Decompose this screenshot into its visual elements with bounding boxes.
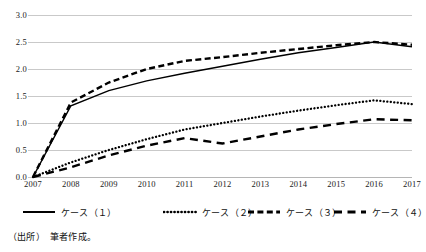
series-lines bbox=[33, 15, 412, 177]
legend-label: ケース（１） bbox=[61, 206, 116, 219]
x-axis-labels: 2007200820092010201120122013201420152016… bbox=[33, 179, 412, 195]
x-axis-tick-label: 2014 bbox=[289, 179, 307, 189]
x-axis-tick-label: 2016 bbox=[365, 179, 383, 189]
y-axis-tick-label: 2.0 bbox=[16, 64, 27, 74]
legend-swatch-long-dash bbox=[333, 207, 367, 217]
y-axis-tick-label: 1.5 bbox=[16, 91, 27, 101]
x-axis-tick-label: 2015 bbox=[327, 179, 345, 189]
plot-area: 0.00.51.01.52.02.53.0 bbox=[33, 15, 412, 177]
legend-swatch-dashed bbox=[247, 207, 281, 217]
y-axis-tick-label: 0.5 bbox=[16, 145, 27, 155]
y-axis-tick-label: 2.5 bbox=[16, 37, 27, 47]
legend-swatch-dotted bbox=[163, 207, 197, 217]
x-axis-tick-label: 2007 bbox=[24, 179, 42, 189]
x-axis-tick-label: 2012 bbox=[214, 179, 232, 189]
chart-area: 0.00.51.01.52.02.53.0 200720082009201020… bbox=[0, 0, 421, 196]
x-axis-tick-label: 2013 bbox=[251, 179, 269, 189]
legend-item-3[interactable]: ケース（３） bbox=[247, 203, 341, 221]
legend-swatch-solid bbox=[22, 207, 56, 217]
y-axis-tick-label: 3.0 bbox=[16, 10, 27, 20]
x-axis-tick-label: 2010 bbox=[138, 179, 156, 189]
x-axis-tick-label: 2017 bbox=[403, 179, 421, 189]
legend-item-1[interactable]: ケース（１） bbox=[22, 203, 116, 221]
x-axis-tick-label: 2011 bbox=[176, 179, 194, 189]
legend-item-4[interactable]: ケース（４） bbox=[333, 203, 426, 221]
x-axis-tick-label: 2008 bbox=[62, 179, 80, 189]
x-axis-tick-label: 2009 bbox=[100, 179, 118, 189]
gridline bbox=[33, 177, 412, 178]
legend-item-2[interactable]: ケース（２） bbox=[163, 203, 257, 221]
legend-label: ケース（４） bbox=[372, 206, 426, 219]
series-line-4 bbox=[33, 119, 412, 177]
source-note: （出所） 筆者作成。 bbox=[8, 230, 96, 243]
chart-legend: ケース（１）ケース（２）ケース（３）ケース（４） bbox=[0, 203, 421, 223]
y-axis-tick-label: 1.0 bbox=[16, 118, 27, 128]
series-line-2 bbox=[33, 100, 412, 177]
